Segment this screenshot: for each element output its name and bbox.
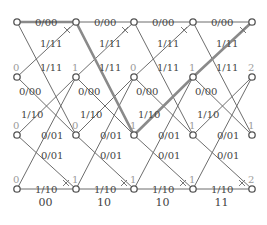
state-node — [14, 186, 20, 192]
state-node — [190, 186, 196, 192]
branch-label: 0/00 — [78, 86, 100, 97]
branch-label: 0/00 — [136, 86, 158, 97]
state-node — [249, 19, 255, 25]
branch-label: 1/11 — [99, 38, 121, 49]
state-node — [131, 19, 137, 25]
state-node — [249, 132, 255, 138]
branch-edge — [76, 135, 134, 189]
state-node — [73, 74, 79, 80]
path-metric: 1 — [130, 174, 136, 185]
path-metric: 0 — [72, 120, 78, 131]
received-symbol: 11 — [215, 196, 229, 209]
branch-label: 0/01 — [41, 130, 63, 141]
trellis-diagram: 0/001/111/110/001/100/010/011/100/001/11… — [0, 0, 267, 225]
path-metric: 1 — [130, 120, 136, 131]
path-metric: 1 — [72, 174, 78, 185]
branch-label: 0/01 — [217, 150, 239, 161]
branch-label: 0/01 — [217, 130, 239, 141]
branch-label: 0/01 — [41, 150, 63, 161]
branch-label: 0/00 — [19, 86, 41, 97]
branch-label: 0/01 — [100, 150, 122, 161]
path-metric: 1 — [189, 62, 195, 73]
branch-label: 1/10 — [211, 184, 233, 195]
branch-label: 1/10 — [35, 184, 57, 195]
branch-label: 1/10 — [80, 109, 102, 120]
branch-label: 0/01 — [100, 130, 122, 141]
path-metric: 1 — [248, 120, 254, 131]
branch-label: 1/10 — [138, 109, 160, 120]
branch-label: 1/11 — [157, 38, 179, 49]
state-node — [73, 186, 79, 192]
branch-label: 1/11 — [216, 62, 238, 73]
path-metric: 1 — [72, 62, 78, 73]
branch-label: 0/00 — [35, 17, 57, 28]
branch-label: 1/11 — [99, 62, 121, 73]
branch-label: 0/00 — [211, 17, 233, 28]
branch-edge — [193, 135, 252, 189]
path-metric: 0 — [13, 62, 19, 73]
branch-labels: 0/001/111/110/001/100/010/011/100/001/11… — [19, 17, 239, 195]
branch-label: 0/00 — [195, 86, 217, 97]
state-node — [131, 186, 137, 192]
path-metric: 0 — [13, 174, 19, 185]
path-metric: 2 — [248, 62, 254, 73]
path-metric: 0 — [130, 62, 136, 73]
received-symbol: 10 — [156, 196, 170, 209]
state-node — [249, 186, 255, 192]
state-node — [73, 19, 79, 25]
state-node — [249, 74, 255, 80]
path-metric: 2 — [248, 174, 254, 185]
path-metric: 0 — [13, 120, 19, 131]
branch-label: 0/00 — [94, 17, 116, 28]
path-metric: 1 — [189, 120, 195, 131]
state-node — [73, 132, 79, 138]
branch-label: 0/01 — [158, 130, 180, 141]
branch-label: 0/01 — [158, 150, 180, 161]
branch-label: 1/11 — [216, 38, 238, 49]
branch-label: 1/10 — [21, 109, 43, 120]
branch-label: 1/10 — [197, 109, 219, 120]
branch-label: 1/10 — [94, 184, 116, 195]
branch-edge — [134, 135, 193, 189]
received-symbol: 00 — [39, 196, 53, 209]
state-node — [131, 132, 137, 138]
state-node — [131, 74, 137, 80]
received-symbol: 10 — [97, 196, 111, 209]
path-metric: 1 — [189, 174, 195, 185]
branch-label: 1/10 — [152, 184, 174, 195]
state-node — [14, 74, 20, 80]
state-node — [190, 74, 196, 80]
branch-label: 1/11 — [157, 62, 179, 73]
branch-label: 0/00 — [152, 17, 174, 28]
received-symbols: 00101011 — [39, 196, 229, 209]
state-node — [14, 19, 20, 25]
state-node — [14, 132, 20, 138]
branch-edge — [17, 135, 76, 189]
branch-label: 1/11 — [40, 62, 62, 73]
branch-label: 1/11 — [40, 38, 62, 49]
state-node — [190, 132, 196, 138]
state-node — [190, 19, 196, 25]
